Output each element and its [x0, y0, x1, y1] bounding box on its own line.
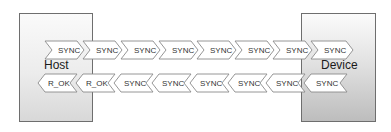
packet-bottom-0: R_OK: [38, 74, 77, 92]
packet-label: SYNC: [238, 79, 260, 88]
packet-label: SYNC: [324, 46, 346, 55]
packet-top-1: SYNC: [83, 41, 122, 59]
packet-bottom-2: SYNC: [114, 74, 153, 92]
packet-label: SYNC: [316, 79, 338, 88]
packet-top-5: SYNC: [235, 41, 274, 59]
packet-bottom-4: SYNC: [190, 74, 229, 92]
packet-bottom-1: R_OK: [76, 74, 115, 92]
bottom-row: R_OK R_OK SYNC SYNC SYNC SYNC SYNC SYNC: [38, 74, 347, 92]
packet-label: SYNC: [124, 79, 146, 88]
packet-label: SYNC: [162, 79, 184, 88]
packet-top-0: SYNC: [45, 41, 84, 59]
packet-label: SYNC: [210, 46, 232, 55]
packet-label: SYNC: [134, 46, 156, 55]
packet-top-6: SYNC: [273, 41, 312, 59]
packet-top-7: SYNC: [311, 41, 353, 59]
packet-label: SYNC: [172, 46, 194, 55]
packet-bottom-6: SYNC: [266, 74, 305, 92]
packet-top-4: SYNC: [197, 41, 236, 59]
packet-label: SYNC: [96, 46, 118, 55]
packet-top-2: SYNC: [121, 41, 160, 59]
packet-bottom-5: SYNC: [228, 74, 267, 92]
device-label: Device: [321, 58, 358, 72]
packet-label: SYNC: [58, 46, 80, 55]
packet-label: R_OK: [86, 79, 108, 88]
packet-label: SYNC: [286, 46, 308, 55]
packet-bottom-7: SYNC: [304, 74, 347, 92]
packet-label: SYNC: [248, 46, 270, 55]
packet-label: SYNC: [276, 79, 298, 88]
packet-label: R_OK: [48, 79, 70, 88]
packet-top-3: SYNC: [159, 41, 198, 59]
packet-label: SYNC: [200, 79, 222, 88]
packet-bottom-3: SYNC: [152, 74, 191, 92]
top-row: SYNC SYNC SYNC SYNC SYNC SYNC SYNC SYNC: [45, 41, 353, 59]
host-label: Host: [44, 58, 69, 72]
